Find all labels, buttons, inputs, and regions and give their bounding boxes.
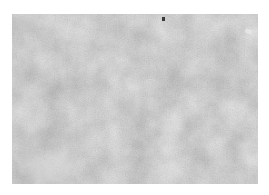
light-patch (18, 154, 78, 182)
dark-speck (162, 17, 165, 21)
noise-texture-image (12, 14, 258, 184)
